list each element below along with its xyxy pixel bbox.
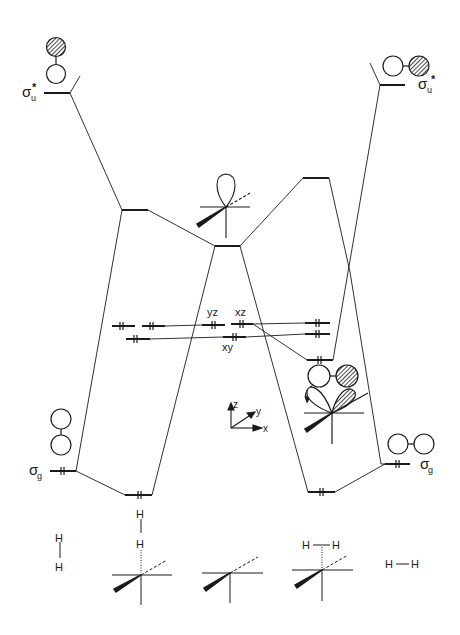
label-sigma-u-star-right-sup: * — [431, 73, 436, 85]
label-d-xy: xy — [222, 341, 234, 353]
label-sigma-g-right-sub: g — [428, 465, 433, 475]
label-sigma-u-star-right-sub: u — [427, 85, 432, 95]
label-axis-z: z — [233, 399, 238, 410]
label-h-right-right: H — [411, 558, 419, 570]
label-h-side-on-left: H — [302, 539, 310, 551]
mo-diagram: σ u * σ u * σ g σ g yz xz xy z y x H H H… — [0, 0, 460, 635]
structure-side-on — [292, 545, 353, 601]
label-h-end-on-bottom: H — [136, 538, 144, 550]
label-sigma-u-star-left-sup: * — [32, 81, 37, 93]
orbital-sigma-g-right — [388, 434, 434, 454]
label-d-xz: xz — [235, 306, 246, 318]
orbital-metal-lobe — [197, 174, 250, 238]
label-h-side-on-right: H — [332, 539, 340, 551]
label-h-left-bottom: H — [55, 561, 63, 573]
structure-fragment — [202, 557, 263, 603]
energy-levels — [44, 85, 410, 495]
label-sigma-g-left-sub: g — [37, 471, 42, 481]
correlation-lines — [70, 63, 385, 495]
label-sigma-u-star-left-sub: u — [31, 93, 36, 103]
structure-end-on — [112, 519, 172, 605]
label-h-right-left: H — [385, 558, 393, 570]
orbital-sigma-g-left — [51, 409, 71, 455]
label-axis-x: x — [263, 423, 268, 434]
label-axis-y: y — [256, 406, 261, 417]
orbital-back-donation — [304, 365, 368, 444]
orbital-sigma-u-star-left — [47, 38, 66, 84]
orbital-sigma-u-star-right — [383, 56, 429, 76]
label-h-end-on-top: H — [136, 508, 144, 520]
label-d-yz: yz — [207, 306, 218, 318]
label-h-left-top: H — [55, 532, 63, 544]
